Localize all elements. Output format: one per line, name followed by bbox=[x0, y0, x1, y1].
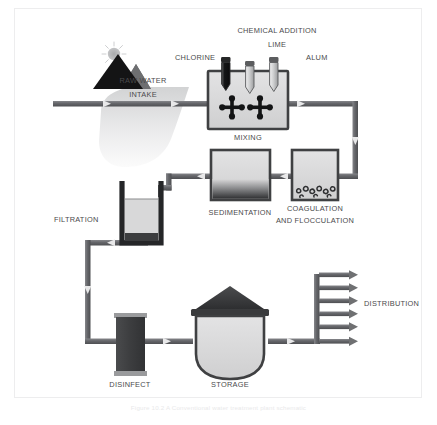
storage-roof bbox=[193, 286, 267, 311]
label-sedimentation: SEDIMENTATION bbox=[209, 208, 272, 218]
distribution-branch-3 bbox=[319, 299, 350, 304]
label-mixing: MIXING bbox=[234, 133, 262, 143]
distribution-branch-5 bbox=[319, 325, 350, 330]
pipe-mixing-outlet bbox=[286, 101, 358, 107]
coagulation-tank-unit bbox=[292, 150, 338, 200]
distribution-manifold bbox=[319, 270, 358, 346]
sedimentation-sludge-layer bbox=[213, 179, 269, 199]
label-distribution: DISTRIBUTION bbox=[364, 299, 419, 309]
distribution-branch-2 bbox=[319, 286, 350, 291]
label-filtration: FILTRATION bbox=[54, 215, 99, 225]
filtration-basin-unit bbox=[122, 181, 161, 243]
chemical-feed-lime bbox=[245, 61, 255, 94]
sedimentation-tank-unit bbox=[211, 150, 270, 200]
filtration-water bbox=[125, 199, 158, 233]
chemical-feed-alum bbox=[269, 57, 279, 92]
distribution-branch-4 bbox=[319, 312, 350, 317]
disinfect-bottom-cap bbox=[114, 371, 147, 376]
label-disinfect: DISINFECT bbox=[109, 380, 150, 390]
pipe-into-disinfect bbox=[85, 339, 117, 345]
distribution-branch-6 bbox=[319, 339, 350, 344]
figure-caption: Figure 10.2 A Conventional water treatme… bbox=[0, 404, 437, 411]
process-flow-diagram bbox=[15, 9, 421, 397]
chemical-feed-chlorine bbox=[221, 57, 231, 91]
label-lime: LIME bbox=[268, 40, 286, 50]
water-treatment-figure: CHEMICAL ADDITION LIME CHLORINE ALUM RAW… bbox=[0, 0, 437, 425]
label-raw-water: RAW WATER bbox=[119, 76, 166, 86]
storage-tank-unit bbox=[191, 286, 269, 379]
mixing-tank-unit bbox=[208, 57, 288, 129]
distribution-branch-1 bbox=[319, 273, 350, 278]
label-chemical-addition: CHEMICAL ADDITION bbox=[237, 26, 316, 36]
label-alum: ALUM bbox=[306, 53, 328, 63]
label-coagulation: COAGULATION bbox=[287, 204, 343, 214]
label-storage: STORAGE bbox=[211, 380, 249, 390]
label-and-flocculation: AND FLOCCULATION bbox=[276, 216, 354, 226]
label-chlorine: CHLORINE bbox=[175, 53, 215, 63]
filtration-freeboard bbox=[125, 185, 158, 199]
pipe-into-coagulation bbox=[337, 174, 358, 180]
pipe-distribution-riser bbox=[314, 274, 320, 344]
label-intake: INTAKE bbox=[129, 90, 157, 100]
pipe-intake-to-mixing bbox=[53, 101, 208, 107]
disinfect-body bbox=[116, 317, 145, 373]
filtration-media-bed bbox=[125, 233, 158, 241]
disinfect-unit bbox=[114, 313, 147, 376]
distribution-arrowheads bbox=[349, 270, 358, 346]
storage-body bbox=[196, 316, 264, 379]
diagram-frame: CHEMICAL ADDITION LIME CHLORINE ALUM RAW… bbox=[14, 8, 422, 398]
